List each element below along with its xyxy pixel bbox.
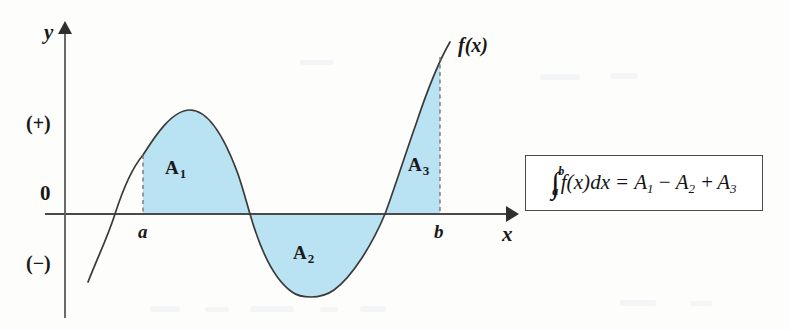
- y-axis-label: y: [44, 22, 53, 43]
- area-a2-subscript: 2: [307, 251, 315, 266]
- operator-plus: +: [695, 170, 717, 194]
- shaded-area-a1: [88, 110, 250, 282]
- lower-bound-label: a: [138, 222, 148, 241]
- x-axis-arrowhead: [506, 206, 519, 222]
- term-a3: A: [717, 170, 730, 194]
- term-a2: A: [676, 170, 689, 194]
- operator-minus: −: [654, 170, 676, 194]
- integral-sign-group: ∫ba: [551, 166, 559, 200]
- area-a3-name: A: [408, 154, 422, 175]
- formula-inner: ∫baf(x)dx=A1−A2+A3: [526, 156, 762, 210]
- integrand: f(x)dx: [561, 170, 611, 194]
- area-label-a1: A1: [165, 158, 186, 180]
- area-a1-subscript: 1: [179, 166, 187, 181]
- negative-sign-label: (−): [26, 253, 51, 273]
- term-a1: A: [634, 170, 647, 194]
- y-axis-arrowhead: [58, 21, 72, 34]
- area-a3-subscript: 3: [422, 163, 430, 178]
- zero-label: 0: [40, 183, 51, 204]
- area-label-a2: A2: [293, 243, 314, 265]
- area-a1-name: A: [165, 157, 179, 178]
- positive-sign-label: (+): [26, 113, 51, 133]
- integral-lower-limit: a: [552, 184, 558, 199]
- formula-box: ∫baf(x)dx=A1−A2+A3: [525, 155, 763, 211]
- term-a3-subscript: 3: [730, 181, 737, 196]
- equals-sign: =: [610, 170, 634, 194]
- integral-upper-limit: b: [558, 164, 564, 179]
- function-label: f(x): [458, 35, 488, 55]
- area-label-a3: A3: [408, 155, 429, 177]
- plus-glyph: +: [701, 170, 713, 194]
- area-a2-name: A: [293, 242, 307, 263]
- x-axis-label: x: [502, 224, 513, 245]
- equals-glyph: =: [616, 170, 628, 194]
- upper-bound-label: b: [434, 222, 444, 241]
- shaded-area-a2: [250, 214, 385, 297]
- term-a1-subscript: 1: [647, 181, 654, 196]
- minus-glyph: −: [659, 170, 671, 194]
- integral-formula: ∫baf(x)dx=A1−A2+A3: [551, 166, 736, 200]
